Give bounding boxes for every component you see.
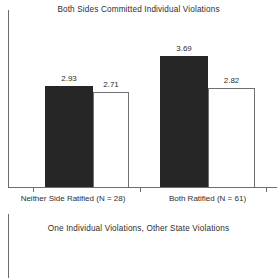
lower-panel: One Individual Violations, Other State V…: [0, 212, 277, 278]
category-label-group-1: Neither Side Ratified (N = 28): [8, 194, 138, 203]
x-axis-line: [8, 187, 277, 188]
bar-dark-group-2: [160, 56, 208, 187]
lower-panel-caption: One Individual Violations, Other State V…: [0, 224, 277, 233]
value-label-light-group-2: 2.82: [208, 76, 255, 85]
bar-chart-figure: Both Sides Committed Individual Violatio…: [0, 0, 277, 278]
bar-light-group-2: [208, 88, 255, 187]
bar-light-group-1: [93, 92, 129, 187]
x-axis-tick-2: [140, 187, 141, 192]
bars-layer: [0, 0, 277, 187]
value-label-light-group-1: 2.71: [88, 80, 134, 89]
bar-dark-group-1: [45, 86, 93, 187]
x-axis-tick-1: [33, 187, 34, 192]
value-label-dark-group-1: 2.93: [44, 74, 94, 83]
x-axis-tick-3: [266, 187, 267, 192]
value-label-dark-group-2: 3.69: [159, 44, 209, 53]
category-label-group-2: Both Ratified (N = 61): [145, 194, 270, 203]
chart-panel: Both Sides Committed Individual Violatio…: [0, 0, 277, 210]
